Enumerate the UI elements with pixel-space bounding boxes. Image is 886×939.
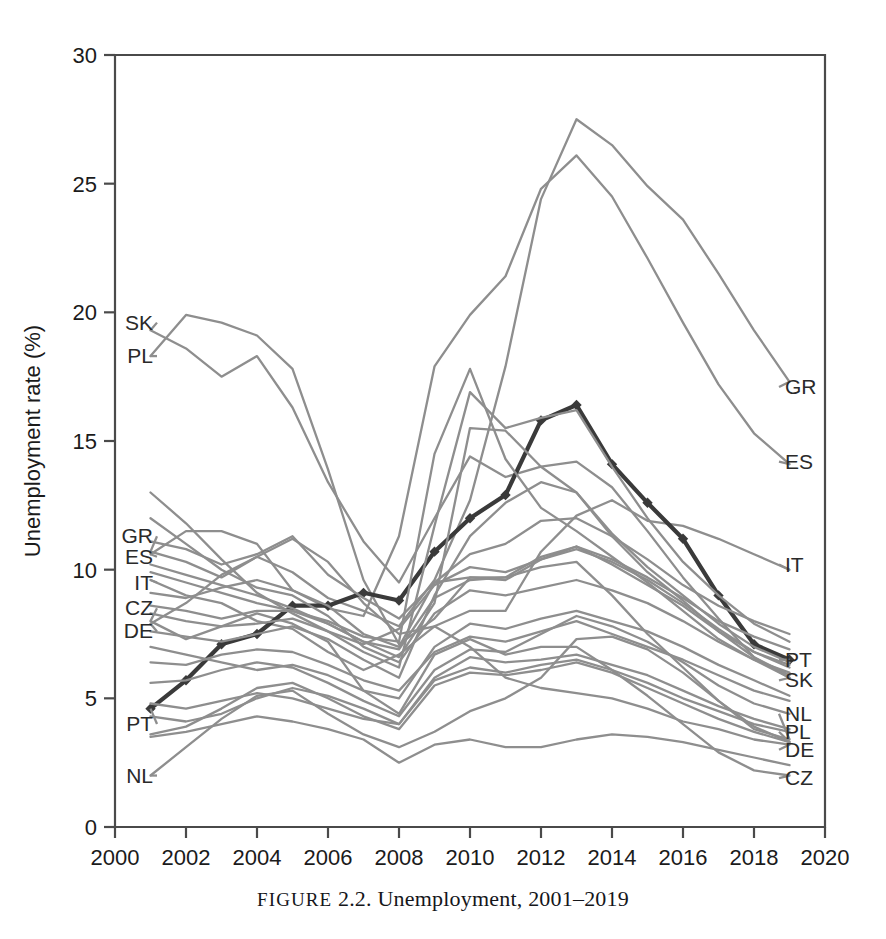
x-tick-label: 2002 xyxy=(162,845,211,870)
series-label-left-nl: NL xyxy=(126,764,153,787)
figure-caption: FIGURE 2.2. Unemployment, 2001–2019 xyxy=(0,886,886,912)
series-line xyxy=(151,621,790,701)
series-label-left-es: ES xyxy=(125,545,153,568)
series-label-right-de: DE xyxy=(785,738,814,761)
caption-figure-word: FIGURE xyxy=(257,889,332,910)
x-tick-label: 2000 xyxy=(91,845,140,870)
series-label-right-pt: PT xyxy=(785,648,812,671)
series-label-right-es: ES xyxy=(785,450,813,473)
line-chart: 051015202530 200020022004200620082010201… xyxy=(0,0,886,886)
y-tick-label: 0 xyxy=(85,815,97,840)
series-label-left-pl: PL xyxy=(127,344,153,367)
series-label-left-de: DE xyxy=(124,619,153,642)
y-tick-label: 25 xyxy=(73,172,97,197)
caption-text: 2.2. Unemployment, 2001–2019 xyxy=(338,886,629,911)
x-tick-label: 2016 xyxy=(659,845,708,870)
y-tick-label: 20 xyxy=(73,300,97,325)
series-line xyxy=(151,119,790,626)
series-line xyxy=(151,500,790,670)
x-tick-label: 2014 xyxy=(588,845,637,870)
series-label-left-cz: CZ xyxy=(125,596,153,619)
series-line xyxy=(151,315,790,742)
x-tick-label: 2010 xyxy=(446,845,495,870)
y-tick-label: 30 xyxy=(73,43,97,68)
series-label-right-it: IT xyxy=(785,553,804,576)
y-tick-group: 051015202530 xyxy=(73,43,115,840)
x-tick-label: 2018 xyxy=(730,845,779,870)
series-label-left-pt: PT xyxy=(126,712,153,735)
x-tick-label: 2004 xyxy=(233,845,282,870)
y-tick-label: 5 xyxy=(85,686,97,711)
y-axis-title: Unemployment rate (%) xyxy=(20,325,45,557)
series-label-left-gr: GR xyxy=(122,524,154,547)
series-label-left-it: IT xyxy=(134,571,153,594)
x-tick-label: 2006 xyxy=(304,845,353,870)
figure-container: 051015202530 200020022004200620082010201… xyxy=(0,0,886,939)
series-label-right-sk: SK xyxy=(785,668,813,691)
y-tick-label: 10 xyxy=(73,558,97,583)
series-label-right-cz: CZ xyxy=(785,766,813,789)
series-line xyxy=(151,539,790,745)
x-tick-label: 2008 xyxy=(375,845,424,870)
series-group xyxy=(145,119,794,778)
x-tick-label: 2012 xyxy=(517,845,566,870)
x-tick-label: 2020 xyxy=(801,845,850,870)
series-label-right-gr: GR xyxy=(785,375,817,398)
series-line xyxy=(151,155,790,616)
x-tick-group: 2000200220042006200820102012201420162018… xyxy=(91,827,850,870)
series-label-left-sk: SK xyxy=(125,311,153,334)
y-tick-label: 15 xyxy=(73,429,97,454)
series-label-right-nl: NL xyxy=(785,702,812,725)
